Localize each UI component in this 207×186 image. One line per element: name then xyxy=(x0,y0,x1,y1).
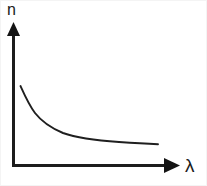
x-axis-label: λ xyxy=(185,155,195,176)
x-axis-arrow-icon xyxy=(164,158,180,173)
y-axis-arrow-icon xyxy=(7,22,20,36)
y-axis-label: n xyxy=(7,1,16,18)
figure-canvas: n λ xyxy=(1,1,207,186)
dispersion-figure: n λ xyxy=(0,0,207,186)
dispersion-curve xyxy=(21,86,159,144)
